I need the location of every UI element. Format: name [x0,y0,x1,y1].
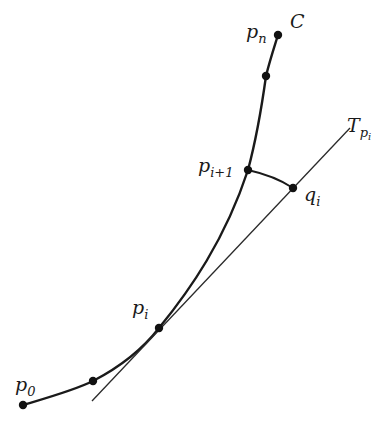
label-pi: pi [132,296,148,322]
point-mid-lower [89,377,97,385]
point-pi [155,324,163,332]
label-c: C [290,10,305,32]
point-qi [289,184,297,192]
point-mid-upper [262,72,270,80]
label-pn: pn [246,20,267,46]
label-tangent: Tpi [347,114,371,142]
projection-arc [248,170,293,188]
point-p0 [19,401,27,409]
label-qi: qi [304,183,320,209]
curve-c [23,35,278,405]
label-p0: p0 [15,373,35,399]
label-pi1: pi+1 [198,154,234,180]
point-pi1 [244,166,252,174]
point-pn [274,31,282,39]
curve-tangent-diagram: pn C pi+1 qi Tpi pi p0 [0,0,389,426]
